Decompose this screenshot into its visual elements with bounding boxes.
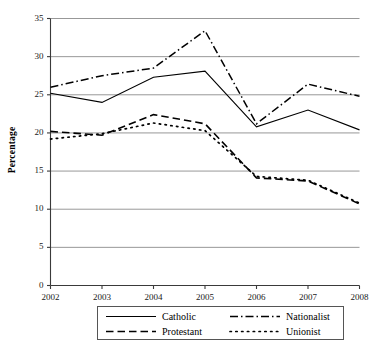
x-tick-label: 2002 — [33, 292, 69, 302]
legend-label-unionist: Unionist — [286, 326, 320, 337]
y-tick-label: 30 — [22, 51, 44, 61]
y-tick-label: 35 — [22, 13, 44, 23]
y-tick-label: 10 — [22, 203, 44, 213]
chart-legend: Catholic Nationalist Protestant Unionist — [97, 306, 344, 340]
y-tick-label: 5 — [22, 241, 44, 251]
legend-swatch-unionist — [229, 326, 281, 337]
series-line-nationalist — [51, 31, 360, 124]
series-line-unionist — [51, 123, 360, 203]
legend-swatch-catholic — [105, 311, 157, 322]
legend-item-nationalist: Nationalist — [222, 309, 343, 324]
y-tick-label: 25 — [22, 89, 44, 99]
x-tick-label: 2006 — [239, 292, 275, 302]
legend-swatch-nationalist — [229, 311, 281, 322]
legend-row: Catholic Nationalist — [98, 309, 343, 324]
tick-marks-group — [47, 19, 360, 290]
y-tick-label: 0 — [22, 280, 44, 290]
axis-lines-group — [51, 19, 360, 286]
legend-item-unionist: Unionist — [222, 324, 343, 339]
series-line-protestant — [51, 115, 360, 204]
y-tick-label: 15 — [22, 165, 44, 175]
legend-item-catholic: Catholic — [98, 309, 222, 324]
series-line-catholic — [51, 71, 360, 130]
legend-label-catholic: Catholic — [162, 311, 196, 322]
legend-label-protestant: Protestant — [162, 326, 202, 337]
legend-item-protestant: Protestant — [98, 324, 222, 339]
chart-figure: Percentage 35302520151050 20022003200420… — [0, 0, 374, 349]
x-tick-label: 2005 — [187, 292, 223, 302]
legend-swatch-protestant — [105, 326, 157, 337]
x-tick-label: 2007 — [290, 292, 326, 302]
gridlines-group — [51, 19, 360, 248]
x-tick-label: 2003 — [84, 292, 120, 302]
legend-row: Protestant Unionist — [98, 324, 343, 339]
x-tick-label: 2004 — [136, 292, 172, 302]
x-tick-label: 2008 — [342, 292, 374, 302]
legend-label-nationalist: Nationalist — [286, 311, 330, 322]
y-tick-label: 20 — [22, 127, 44, 137]
